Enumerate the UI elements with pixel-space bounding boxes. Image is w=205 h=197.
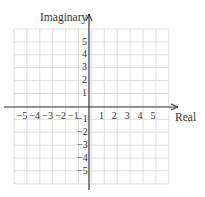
y-tick-label: 5 [82, 37, 87, 47]
x-tick-label: 5 [151, 111, 156, 121]
y-tick-label: 4 [82, 49, 87, 59]
y-tick-label: −2 [77, 127, 88, 137]
y-tick-label: −3 [77, 140, 88, 150]
y-tick-label: −4 [77, 153, 88, 163]
x-tick-label: −3 [42, 111, 53, 121]
y-tick-label: 3 [82, 62, 87, 72]
y-tick-label: 1 [82, 88, 87, 98]
x-tick-label: 2 [112, 111, 117, 121]
x-tick-label: 3 [125, 111, 130, 121]
y-tick-label: −5 [77, 166, 88, 176]
x-tick-label: −5 [17, 111, 28, 121]
x-tick-label: −2 [55, 111, 66, 121]
x-tick-label: 4 [138, 111, 143, 121]
complex-plane: Imaginary Real −5−4−3−2−11234554321−1−2−… [0, 0, 205, 197]
grid [0, 0, 205, 197]
y-tick-label: −1 [77, 114, 88, 124]
y-tick-label: 2 [82, 75, 87, 85]
x-tick-label: 1 [99, 111, 104, 121]
x-tick-label: −4 [29, 111, 40, 121]
imaginary-axis-label: Imaginary [40, 11, 87, 23]
real-axis-label: Real [175, 111, 196, 123]
